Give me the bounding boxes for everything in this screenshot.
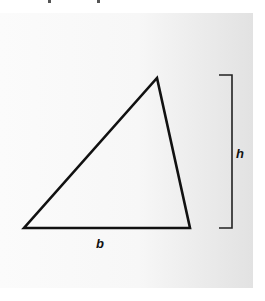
base-label: b <box>96 236 104 251</box>
height-bracket <box>219 75 232 228</box>
height-label: h <box>236 146 244 161</box>
triangle-shape <box>24 78 190 228</box>
triangle-diagram <box>0 0 265 301</box>
